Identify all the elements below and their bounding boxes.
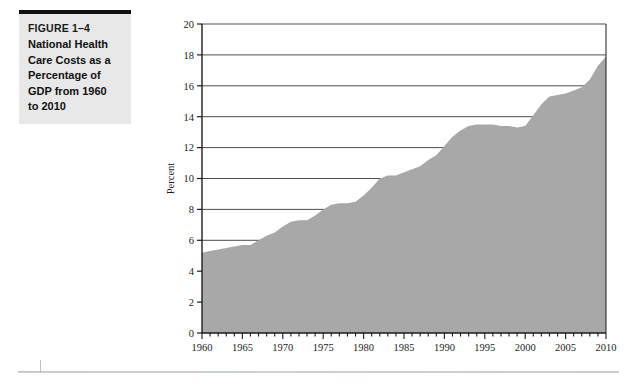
x-tick-label: 1970 (272, 342, 293, 353)
x-tick-label: 2010 (596, 342, 617, 353)
y-tick-label: 8 (189, 204, 194, 215)
chart-area-series (202, 56, 606, 333)
y-tick-label: 14 (184, 112, 195, 123)
x-tick-label: 1965 (232, 342, 253, 353)
chart-y-axis-title: Percent (165, 163, 176, 195)
y-tick-label: 0 (189, 328, 194, 339)
x-tick-label: 1995 (474, 342, 495, 353)
y-tick-label: 20 (184, 19, 195, 30)
page-scan-artifact-shadow (18, 372, 619, 373)
figure-title-line: GDP from 1960 (28, 84, 122, 100)
x-tick-label: 1985 (394, 342, 415, 353)
x-tick-label: 2005 (555, 342, 576, 353)
y-tick-label: 6 (189, 235, 194, 246)
figure-title-line: Percentage of (28, 68, 122, 84)
area-chart: 02468101214161820 1960196519701975198019… (160, 4, 630, 364)
y-tick-label: 16 (184, 81, 195, 92)
y-tick-label: 4 (189, 266, 195, 277)
x-tick-label: 1990 (434, 342, 455, 353)
x-tick-label: 2000 (515, 342, 536, 353)
y-axis-title-label: Percent (165, 163, 176, 195)
y-tick-label: 18 (184, 50, 195, 61)
area-fill (202, 56, 606, 333)
x-tick-label: 1980 (353, 342, 374, 353)
chart-y-axis: 02468101214161820 (184, 19, 203, 339)
x-tick-label: 1960 (192, 342, 213, 353)
figure-caption-box: FIGURE 1–4 National Health Care Costs as… (19, 10, 131, 124)
figure-title: National Health Care Costs as a Percenta… (28, 37, 122, 115)
figure-number: FIGURE 1–4 (28, 21, 122, 36)
figure-title-line: to 2010 (28, 99, 122, 115)
x-tick-label: 1975 (313, 342, 334, 353)
y-tick-label: 12 (184, 142, 195, 153)
figure-title-line: Care Costs as a (28, 53, 122, 69)
y-tick-label: 2 (189, 297, 194, 308)
figure-title-line: National Health (28, 37, 122, 53)
figure-page: FIGURE 1–4 National Health Care Costs as… (0, 0, 637, 383)
chart-canvas: 02468101214161820 1960196519701975198019… (160, 4, 630, 364)
y-tick-label: 10 (184, 173, 195, 184)
chart-x-axis: 1960196519701975198019851990199520002005… (192, 333, 617, 353)
